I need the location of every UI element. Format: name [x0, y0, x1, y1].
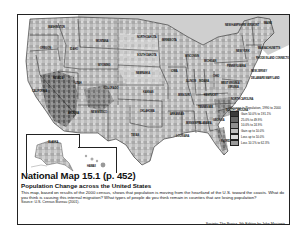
state-label: MICHIGAN: [204, 61, 216, 64]
map-source: Source: U.S. Census Bureau (2001).: [21, 200, 287, 205]
state-label: MINNESOTA: [162, 40, 176, 43]
legend-label: 10.0% to 24.9%: [241, 123, 262, 127]
state-label: NEW HAMPSHIRE VERMONT: [225, 25, 259, 28]
map-legend: Change in Population, 1990 to 2000 Gain …: [230, 107, 288, 145]
book-credit: Society: The Basics, 9th Edition by John…: [206, 222, 285, 225]
state-label: ARKANSAS: [170, 114, 184, 117]
state-label: NEBRASKA: [136, 73, 150, 76]
state-label: OREGON: [40, 48, 51, 51]
us-population-map: WASHINGTONOREGONIDAHOMONTANANORTH DAKOTA…: [18, 15, 289, 172]
state-label: LOUISIANA: [176, 136, 189, 139]
state-label: PENNSYLVANIA: [227, 66, 246, 69]
state-label: SOUTH DAKOTA: [137, 55, 157, 58]
state-label: NEVADA: [53, 78, 63, 81]
state-label: IOWA: [171, 71, 178, 74]
state-label: WISCONSIN: [185, 56, 199, 59]
map-figure: WASHINGTONOREGONIDAHOMONTANANORTH DAKOTA…: [17, 14, 290, 225]
state-label: COLORADO: [104, 88, 118, 91]
state-label: OKLAHOMA: [140, 111, 154, 114]
state-label: OHIO: [213, 76, 219, 79]
legend-label: Loss 10.1% to 62.3%: [241, 141, 269, 145]
alaska-inset: [26, 134, 80, 173]
legend-label: 25.0% to 49.9%: [241, 118, 262, 122]
map-description: This map, based on results of the 2000 c…: [21, 190, 287, 200]
map-subtitle: Population Change across the United Stat…: [21, 182, 287, 189]
state-label: GEORGIA: [213, 120, 225, 123]
state-label: CALIFORNIA: [32, 91, 47, 94]
legend-swatch: [230, 140, 239, 146]
state-label: KENTUCKY: [204, 95, 218, 98]
state-label: TEXAS: [131, 135, 139, 138]
state-label: ARIZONA: [68, 113, 79, 116]
state-label: WASHINGTON: [48, 27, 65, 30]
legend-label: Loss up to 10.0%: [241, 135, 264, 139]
state-label: WYOMING: [98, 65, 110, 68]
state-label: NEW JERSEY: [251, 71, 267, 74]
state-label: MONTANA: [96, 41, 108, 44]
state-label: NEW YORK: [236, 51, 249, 54]
state-label: DELAWARE MARYLAND: [251, 78, 279, 81]
state-label: NORTH DAKOTA: [137, 37, 157, 40]
state-label: WEST VIRGINIA: [221, 83, 239, 86]
state-label: ILLINOIS: [186, 81, 196, 84]
state-label: VIRGINIA: [228, 87, 239, 90]
legend-label: Gain up to 10.0%: [241, 129, 264, 133]
state-label: MASSACHUSETTS: [258, 48, 280, 51]
state-label: INDIANA: [199, 81, 209, 84]
state-label: MISSOURI: [178, 95, 190, 98]
legend-label: Gain 50.0% to 191.1%: [241, 112, 271, 116]
legend-item: Loss 10.1% to 62.3%: [230, 140, 288, 145]
state-label: NORTH CAROLINA: [231, 99, 253, 102]
state-label: MAINE: [264, 23, 272, 26]
state-label: ALABAMA: [199, 123, 211, 126]
state-label: RHODE ISLAND CONNECTICUT: [256, 58, 290, 61]
state-label: UTAH: [75, 83, 82, 86]
state-label: KANSAS: [143, 92, 153, 95]
state-label: ALASKA: [48, 142, 58, 145]
map-caption: National Map 15.1 (p. 452) Population Ch…: [21, 171, 287, 205]
map-title: National Map 15.1 (p. 452): [21, 171, 287, 181]
state-label: NEW MEXICO: [91, 112, 107, 115]
state-label: IDAHO: [70, 49, 78, 52]
state-label: TENNESSEE: [198, 107, 213, 110]
state-label: HAWAII: [87, 166, 96, 169]
